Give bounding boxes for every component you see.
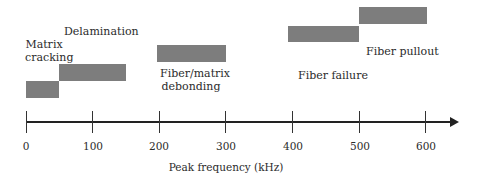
bar-fiber-pullout [359,7,427,24]
tick-600 [425,111,426,133]
label-fiber-pullout: Fiber pullout [366,45,439,58]
tick-500 [359,111,360,133]
label-line: debonding [160,80,222,93]
tick-200 [159,111,160,133]
bar-matrix-cracking [26,81,59,98]
label-delamination: Delamination [64,25,139,38]
label-matrix-cracking: Matrix cracking [25,38,63,64]
tick-0 [26,111,27,133]
tick-label-0: 0 [23,140,30,152]
tick-300 [225,111,226,133]
x-axis-title-text: Peak frequency (kHz) [169,161,284,173]
tick-100 [92,111,93,133]
tick-label-300: 300 [216,140,236,152]
label-fiber-matrix-debonding: Fiber/matrix debonding [160,67,222,93]
tick-400 [292,111,293,133]
tick-label-400: 400 [283,140,303,152]
label-line: Fiber/matrix [160,67,222,80]
bar-fiber-failure [288,26,359,42]
axis-arrow-icon [450,117,459,127]
x-axis-title: Peak frequency (kHz) [0,161,482,173]
tick-label-500: 500 [350,140,370,152]
label-line: Matrix [25,38,63,51]
bar-fiber-matrix-debonding [157,45,226,62]
label-fiber-failure: Fiber failure [298,69,368,82]
x-axis-line [26,121,452,123]
tick-label-100: 100 [83,140,103,152]
tick-label-600: 600 [416,140,436,152]
bar-delamination [59,64,126,81]
label-line: cracking [25,51,63,64]
tick-label-200: 200 [149,140,169,152]
